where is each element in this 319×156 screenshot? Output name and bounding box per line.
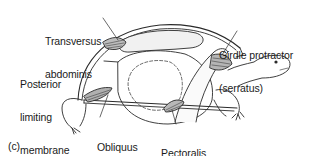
label-girdle-line1: Girdle protractor	[219, 50, 293, 61]
label-posterior-line2: limiting	[20, 112, 69, 123]
label-pectoralis-line1: Pectoralis	[161, 148, 206, 156]
label-posterior-line1: Posterior	[20, 79, 69, 90]
label-girdle-protractor: Girdle protractor (serratus)	[219, 28, 293, 116]
turtle-musculature-diagram: Transversus abdominis Girdle protractor …	[0, 0, 319, 156]
label-girdle-line2: (serratus)	[219, 83, 293, 94]
label-transversus-line1: Transversus	[45, 36, 101, 47]
label-pectoralis: Pectoralis	[161, 126, 206, 156]
label-obliquus-abdominis: Obliquus abdominis	[97, 120, 144, 156]
label-obliquus-line1: Obliquus	[97, 142, 144, 153]
label-posterior-limiting-membrane: Posterior limiting membrane	[20, 57, 69, 156]
label-posterior-line3: membrane	[20, 145, 69, 156]
panel-label: (c)	[8, 141, 20, 152]
